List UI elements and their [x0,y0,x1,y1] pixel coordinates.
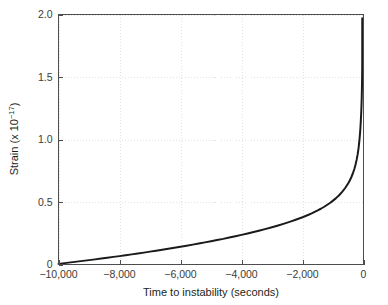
y-axis-title-exponent: −17 [7,106,16,119]
y-tick-label: 1.5 [38,71,53,83]
y-axis-title-main: Strain (x 10 [8,119,20,175]
y-tick-label: 2.0 [38,8,53,20]
x-tick-label: −2,000 [286,268,319,280]
x-tick-label: −4,000 [225,268,258,280]
x-tick-label: −10,000 [39,268,77,280]
x-tick-label: 0 [361,268,367,280]
strain-vs-time-chart: −10,000−8,000−6,000−4,000−2,0000 00.51.0… [0,0,388,305]
x-tick-label: −8,000 [103,268,136,280]
y-tick-label: 0.5 [38,196,53,208]
x-tick-label: −6,000 [164,268,197,280]
chart-figure: −10,000−8,000−6,000−4,000−2,0000 00.51.0… [0,0,388,305]
x-axis-title: Time to instability (seconds) [143,286,279,298]
y-tick-label: 1.0 [38,133,53,145]
y-axis-title-close: ) [8,103,20,107]
y-tick-label: 0 [47,258,53,270]
